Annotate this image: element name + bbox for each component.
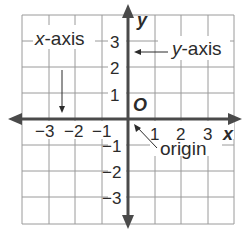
y-axis-up-arrow-icon: [122, 4, 134, 18]
y-tick: −1: [102, 137, 121, 156]
x-tick: −2: [64, 122, 83, 141]
y-axis-callout: y-axis: [170, 38, 222, 59]
x-axis-callout: x-axis: [34, 28, 85, 49]
coordinate-plane-diagram: y x O −3 −2 −1 1 2 3 3 2 1 −1 −2 −3 x-ax…: [0, 0, 247, 230]
x-tick: −3: [35, 122, 54, 141]
y-tick: 3: [110, 33, 119, 52]
x-tick: 1: [150, 125, 159, 144]
origin-label: O: [133, 95, 147, 115]
y-tick: −2: [102, 163, 121, 182]
origin-callout: origin: [160, 138, 206, 159]
y-axis-down-arrow-icon: [122, 215, 134, 229]
y-tick: 1: [110, 86, 119, 105]
x-axis-callout-arrow-icon: [59, 70, 65, 113]
x-axis-label: x: [222, 124, 234, 144]
y-tick: −3: [102, 189, 121, 208]
x-axis-left-arrow-icon: [8, 113, 22, 125]
y-tick: 2: [110, 59, 119, 78]
y-axis-label: y: [136, 10, 148, 30]
